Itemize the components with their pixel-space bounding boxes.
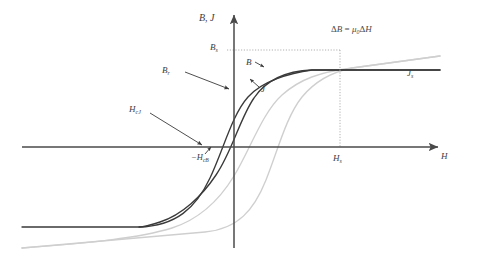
negative-hcb-label-base: −H <box>191 152 203 162</box>
b-curve-group <box>22 56 440 248</box>
j-curve-descending <box>139 70 440 227</box>
j-curve-group <box>22 70 440 227</box>
hysteresis-figure: B, J Bs Br HcJ −HcB B J Hs Js H ΔB = μ0Δ… <box>0 0 483 268</box>
b-curve-ascending <box>22 56 440 248</box>
j-curve-leader-arrow <box>250 79 259 87</box>
negative-hcb-label-sub: cB <box>203 157 209 163</box>
js-label: Js <box>407 69 413 80</box>
hcj-label-sub: cJ <box>136 109 141 115</box>
b-curve-label-base: B <box>246 57 252 67</box>
br-label-sub: r <box>168 70 170 76</box>
figure-canvas <box>0 0 483 268</box>
y-axis-label-j: J <box>210 12 214 23</box>
hcj-label: HcJ <box>129 105 141 116</box>
b-curve-leader-arrow <box>255 62 264 67</box>
hs-label: Hs <box>333 154 342 165</box>
j-curve-label: J <box>261 85 265 94</box>
br-leader-arrow <box>185 72 229 89</box>
negative-hcb-label: −HcB <box>191 153 209 163</box>
j-curve-label-base: J <box>261 84 265 94</box>
h-axis-label-base: H <box>441 151 448 161</box>
br-label: Br <box>162 66 170 77</box>
b-curve-label: B <box>246 58 252 67</box>
bs-label: Bs <box>210 43 218 54</box>
y-axis-label: B, J <box>199 13 215 23</box>
delta-b-equation: ΔB = μ0ΔH <box>331 25 372 36</box>
hs-label-sub: s <box>340 158 342 164</box>
h-axis-label: H <box>441 152 448 161</box>
j-curve-ascending <box>22 70 440 227</box>
hcj-leader-arrow <box>150 113 202 145</box>
equation-rhs-var: H <box>365 24 372 34</box>
bs-label-sub: s <box>216 47 218 53</box>
b-curve-descending <box>22 56 440 248</box>
js-label-sub: s <box>411 73 413 79</box>
equation-equals: = <box>342 24 352 34</box>
